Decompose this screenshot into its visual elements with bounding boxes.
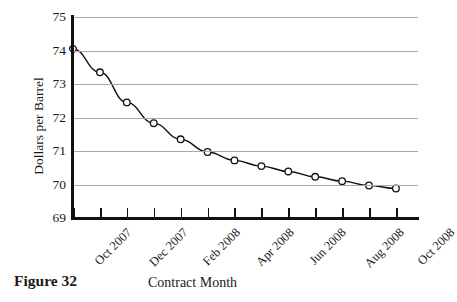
x-tick-label: Jun 2008 [308,226,349,267]
data-point-marker [177,136,184,143]
data-point-marker [124,99,131,106]
x-tick [100,208,102,218]
x-axis-line [71,217,419,220]
x-tick [342,208,344,218]
x-tick [73,208,75,218]
data-point-marker [97,69,104,76]
x-tick-label: Dec 2007 [147,226,190,269]
gridline [73,51,418,52]
series-path [73,49,396,189]
data-point-marker [366,182,373,189]
y-axis-title: Dollars per Barrel [31,51,47,201]
y-tick-label: 74 [53,44,67,58]
x-tick-label: Apr 2008 [254,226,296,268]
data-point-marker [258,163,265,170]
gridline [73,17,418,18]
gridline [73,84,418,85]
data-point-marker [204,149,211,156]
x-tick-label: Oct 2008 [415,226,456,267]
x-tick [154,208,156,218]
x-tick-label: Oct 2007 [93,226,134,267]
data-point-marker [285,168,292,175]
x-tick [288,208,290,218]
x-tick [127,208,129,218]
figure-caption: Figure 32 [14,272,77,290]
x-tick-label: Aug 2008 [363,226,407,270]
data-point-marker [393,185,400,192]
x-tick [369,208,371,218]
x-tick [396,208,398,218]
x-axis-title: Contract Month [148,275,237,291]
x-tick [261,208,263,218]
data-point-marker [339,178,346,185]
y-tick-label: 72 [53,111,67,125]
x-tick [208,208,210,218]
gridline [73,185,418,186]
plot-area [73,17,418,218]
gridline [73,151,418,152]
y-tick-label: 75 [53,10,67,24]
y-tick-label: 70 [53,178,67,192]
data-point-marker [312,173,319,180]
x-tick [234,208,236,218]
x-tick-label: Feb 2008 [200,226,242,268]
data-point-marker [231,157,238,164]
y-axis-line [71,15,74,220]
y-tick-label: 71 [53,144,67,158]
y-tick-label: 69 [53,211,67,225]
x-tick [315,208,317,218]
y-tick-label: 73 [53,77,67,91]
gridline [73,118,418,119]
x-tick [181,208,183,218]
data-point-marker [150,120,157,127]
